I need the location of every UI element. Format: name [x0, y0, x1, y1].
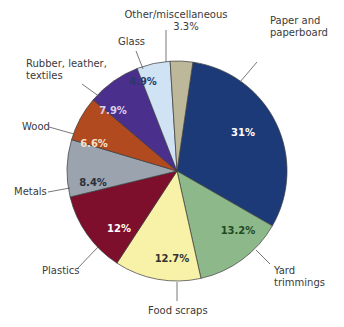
pie-chart: 31%13.2%12.7%12%8.4%6.6%7.9%4.9% Paper a… [0, 0, 344, 327]
category-label-paper-and-paperboard: Paper andpaperboard [270, 15, 328, 38]
category-label-rubber-leather-textiles: Rubber, leather,textiles [26, 58, 107, 81]
category-label-food-scraps: Food scraps [148, 305, 208, 316]
category-label-metals: Metals [14, 186, 47, 197]
percent-label-yard-trimmings: 13.2% [221, 225, 256, 236]
percent-label-food-scraps: 12.7% [155, 253, 190, 264]
category-label-other-miscellaneous: Other/miscellaneous3.3% [125, 9, 228, 32]
leader-line-rubber-leather-textiles [82, 84, 100, 97]
category-label-yard-trimmings: Yardtrimmings [273, 265, 325, 288]
leader-line-plastics [77, 247, 98, 269]
percent-label-plastics: 12% [107, 223, 131, 234]
category-label-wood: Wood [22, 121, 50, 132]
leader-line-glass [136, 51, 143, 69]
percent-label-paper-and-paperboard: 31% [231, 127, 255, 138]
percent-label-glass: 4.9% [129, 76, 157, 87]
leader-line-paper-and-paperboard [240, 62, 257, 82]
pie-slices [67, 61, 287, 281]
percent-label-metals: 8.4% [79, 177, 107, 188]
category-label-glass: Glass [118, 36, 145, 47]
percent-label-rubber-leather-textiles: 7.9% [99, 105, 127, 116]
category-label-plastics: Plastics [42, 265, 80, 276]
leader-line-metals [48, 188, 70, 192]
leader-line-yard-trimmings [256, 250, 270, 264]
leader-line-wood [49, 127, 74, 134]
percent-label-wood: 6.6% [80, 138, 108, 149]
